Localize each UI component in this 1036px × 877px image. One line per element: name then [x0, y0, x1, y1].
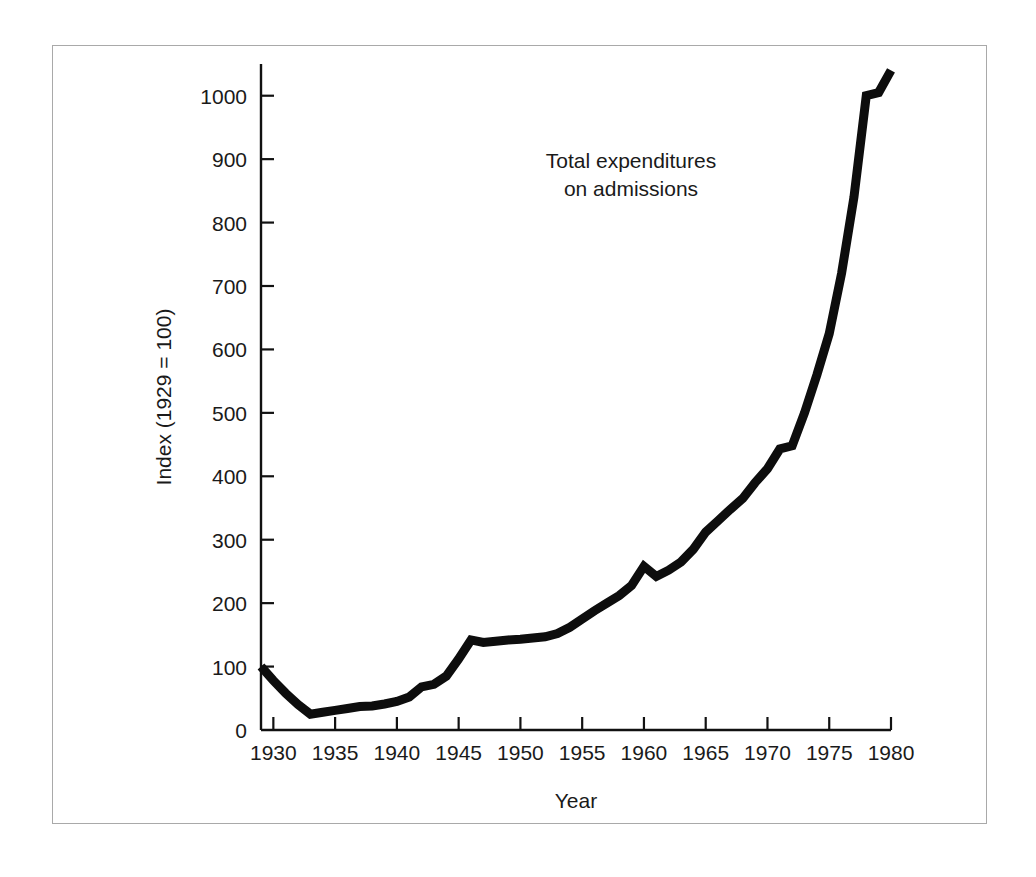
- x-tick-label: 1975: [806, 741, 853, 764]
- x-tick-label: 1980: [868, 741, 915, 764]
- y-tick-label: 200: [212, 592, 247, 615]
- x-tick-label: 1960: [621, 741, 668, 764]
- y-tick-label: 300: [212, 529, 247, 552]
- y-axis-title: Index (1929 = 100): [152, 309, 175, 486]
- y-tick-label: 800: [212, 212, 247, 235]
- chart-page: 01002003004005006007008009001000 1930193…: [0, 0, 1036, 877]
- x-tick-label: 1940: [374, 741, 421, 764]
- x-tick-label: 1965: [682, 741, 729, 764]
- x-axis-ticks: 1930193519401945195019551960196519701975…: [250, 717, 914, 764]
- y-tick-label: 400: [212, 465, 247, 488]
- y-tick-label: 1000: [200, 85, 247, 108]
- series-annotation-line2: on admissions: [564, 177, 698, 200]
- y-tick-label: 500: [212, 402, 247, 425]
- line-chart: 01002003004005006007008009001000 1930193…: [53, 46, 986, 823]
- series-annotation-line1: Total expenditures: [546, 149, 716, 172]
- x-axis-title: Year: [555, 789, 597, 812]
- x-tick-label: 1930: [250, 741, 297, 764]
- x-tick-label: 1955: [559, 741, 606, 764]
- y-tick-label: 0: [235, 719, 247, 742]
- x-tick-label: 1950: [497, 741, 544, 764]
- x-tick-label: 1945: [435, 741, 482, 764]
- x-tick-label: 1970: [744, 741, 791, 764]
- y-axis-ticks: 01002003004005006007008009001000: [200, 85, 274, 742]
- y-tick-label: 600: [212, 338, 247, 361]
- figure-frame: 01002003004005006007008009001000 1930193…: [52, 45, 987, 824]
- y-tick-label: 700: [212, 275, 247, 298]
- y-tick-label: 900: [212, 148, 247, 171]
- x-tick-label: 1935: [312, 741, 359, 764]
- y-tick-label: 100: [212, 656, 247, 679]
